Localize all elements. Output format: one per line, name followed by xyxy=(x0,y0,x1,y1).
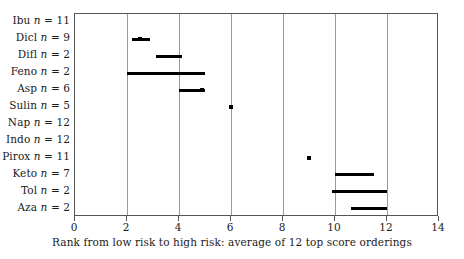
y-label-n-symbol: n xyxy=(37,65,47,77)
y-label-drug: Dicl xyxy=(16,31,37,43)
x-axis-title: Rank from low risk to high risk: average… xyxy=(0,236,464,249)
y-label-drug: Indo xyxy=(6,133,30,145)
y-label-drug: Feno xyxy=(11,65,37,77)
x-axis-tick-label: 6 xyxy=(215,221,245,233)
x-axis-tick-label: 4 xyxy=(163,221,193,233)
y-axis-category-labels: Ibu n = 11Dicl n = 9Difl n = 2Feno n = 2… xyxy=(0,13,70,216)
y-axis-label-asp: Asp n = 6 xyxy=(0,83,70,94)
interval-bar-edge xyxy=(351,207,387,208)
interval-bar-edge xyxy=(332,190,387,191)
point-marker-sulin xyxy=(229,105,233,109)
gridline xyxy=(127,14,128,215)
point-marker-dicl xyxy=(138,37,142,41)
y-axis-label-ibu: Ibu n = 11 xyxy=(0,15,70,26)
x-axis-tick-label: 0 xyxy=(59,221,89,233)
y-label-equals: = xyxy=(47,201,63,213)
y-label-n-count: 11 xyxy=(56,150,70,162)
gridline xyxy=(335,14,336,215)
y-label-drug: Ibu xyxy=(12,14,30,26)
y-label-equals: = xyxy=(47,167,63,179)
y-label-n-symbol: n xyxy=(30,14,40,26)
y-label-n-count: 6 xyxy=(63,82,70,94)
x-axis-tick-label: 8 xyxy=(267,221,297,233)
y-label-drug: Keto xyxy=(12,167,37,179)
y-label-drug: Asp xyxy=(17,82,37,94)
interval-bar-tol xyxy=(332,190,387,193)
y-label-n-count: 2 xyxy=(63,48,70,60)
gridline xyxy=(179,14,180,215)
y-axis-label-nap: Nap n = 12 xyxy=(0,117,70,128)
point-marker-pirox xyxy=(307,156,311,160)
y-label-equals: = xyxy=(47,184,63,196)
interval-bar-feno xyxy=(127,72,205,75)
y-label-drug: Nap xyxy=(8,116,30,128)
y-axis-label-indo: Indo n = 12 xyxy=(0,134,70,145)
y-label-n-symbol: n xyxy=(37,82,47,94)
y-label-n-symbol: n xyxy=(37,184,47,196)
y-axis-label-difl: Difl n = 2 xyxy=(0,49,70,60)
y-label-n-symbol: n xyxy=(30,116,40,128)
y-axis-label-dicl: Dicl n = 9 xyxy=(0,32,70,43)
x-axis-tick-label: 10 xyxy=(319,221,349,233)
y-label-n-symbol: n xyxy=(37,31,47,43)
y-label-equals: = xyxy=(41,116,57,128)
y-label-n-count: 11 xyxy=(56,14,70,26)
interval-bar-edge xyxy=(127,72,205,73)
point-marker-asp xyxy=(200,88,204,92)
y-axis-label-pirox: Pirox n = 11 xyxy=(0,151,70,162)
y-label-equals: = xyxy=(47,48,63,60)
y-label-drug: Pirox xyxy=(2,150,30,162)
y-label-equals: = xyxy=(41,133,57,145)
y-label-n-count: 2 xyxy=(63,201,70,213)
y-label-n-symbol: n xyxy=(30,150,40,162)
y-axis-label-tol: Tol n = 2 xyxy=(0,185,70,196)
gridline xyxy=(387,14,388,215)
interval-bar-edge xyxy=(335,173,374,174)
y-label-equals: = xyxy=(47,82,63,94)
y-label-n-symbol: n xyxy=(37,201,47,213)
x-axis-tick-label: 2 xyxy=(111,221,141,233)
y-label-n-count: 7 xyxy=(63,167,70,179)
x-axis-tick-label: 12 xyxy=(371,221,401,233)
y-label-n-count: 12 xyxy=(56,116,70,128)
y-axis-label-feno: Feno n = 2 xyxy=(0,66,70,77)
rank-interval-chart: Ibu n = 11Dicl n = 9Difl n = 2Feno n = 2… xyxy=(0,0,464,259)
y-axis-label-aza: Aza n = 2 xyxy=(0,202,70,213)
y-label-drug: Aza xyxy=(17,201,37,213)
y-label-n-symbol: n xyxy=(37,48,47,60)
y-label-n-symbol: n xyxy=(37,167,47,179)
interval-bar-difl xyxy=(156,55,182,58)
interval-bar-aza xyxy=(351,207,387,210)
y-label-n-count: 5 xyxy=(63,99,70,111)
x-axis-tick-label: 14 xyxy=(423,221,453,233)
gridline xyxy=(231,14,232,215)
y-axis-label-sulin: Sulin n = 5 xyxy=(0,100,70,111)
y-label-equals: = xyxy=(47,99,63,111)
interval-bar-keto xyxy=(335,173,374,176)
y-axis-label-keto: Keto n = 7 xyxy=(0,168,70,179)
gridline xyxy=(283,14,284,215)
y-label-drug: Tol xyxy=(21,184,37,196)
y-label-equals: = xyxy=(47,65,63,77)
interval-bar-edge xyxy=(156,55,182,56)
y-label-drug: Sulin xyxy=(9,99,37,111)
y-label-n-count: 9 xyxy=(63,31,70,43)
y-label-n-count: 12 xyxy=(56,133,70,145)
y-label-equals: = xyxy=(41,14,57,26)
y-label-equals: = xyxy=(41,150,57,162)
y-label-equals: = xyxy=(47,31,63,43)
y-label-drug: Difl xyxy=(18,48,37,60)
y-label-n-count: 2 xyxy=(63,65,70,77)
y-label-n-count: 2 xyxy=(63,184,70,196)
plot-area xyxy=(74,13,438,216)
y-label-n-symbol: n xyxy=(37,99,47,111)
y-label-n-symbol: n xyxy=(30,133,40,145)
